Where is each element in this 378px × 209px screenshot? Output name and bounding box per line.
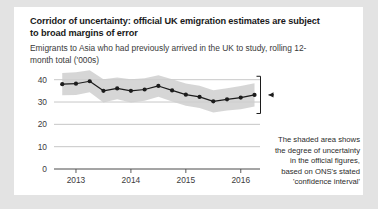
line-chart-svg: 010203040 2013201420152016 [14, 63, 274, 195]
data-point [211, 99, 215, 103]
annotation-arrow [269, 79, 274, 98]
confidence-band-area [62, 70, 254, 112]
x-tick-label: 2016 [231, 175, 250, 185]
bracket-path [257, 76, 261, 113]
data-point [115, 86, 119, 90]
chart-title: Corridor of uncertainty: official UK emi… [30, 15, 330, 39]
data-point [143, 87, 147, 91]
data-point [197, 95, 201, 99]
annotation-line: 'confidence interval' [257, 177, 360, 188]
y-tick-label: 10 [38, 142, 48, 152]
chart-card: Corridor of uncertainty: official UK emi… [14, 7, 363, 195]
confidence-band [62, 70, 254, 112]
data-point [252, 93, 256, 97]
annotation-line: based on ONS's stated [257, 167, 360, 178]
annotation-line: The shaded area shows [257, 135, 360, 146]
x-tick-label: 2014 [122, 175, 141, 185]
x-tick-label: 2015 [177, 175, 196, 185]
chart-plot-area: 010203040 2013201420152016 [14, 63, 274, 195]
data-point [170, 88, 174, 92]
data-point [60, 82, 64, 86]
arrow-head [269, 92, 274, 97]
data-point [239, 95, 243, 99]
x-axis: 2013201420152016 [67, 169, 251, 185]
y-tick-label: 30 [38, 97, 48, 107]
data-point [101, 89, 105, 93]
annotation-line: in the official figures, [257, 156, 360, 167]
annotation-text: The shaded area shows the degree of unce… [257, 135, 360, 188]
y-tick-label: 20 [38, 119, 48, 129]
data-point [74, 82, 78, 86]
data-point [225, 97, 229, 101]
y-tick-label: 0 [42, 164, 47, 174]
y-axis-ticks: 010203040 [38, 75, 48, 174]
data-point [88, 79, 92, 83]
data-point [184, 93, 188, 97]
uncertainty-bracket [257, 76, 261, 113]
y-tick-label: 40 [38, 75, 48, 85]
annotation-line: the degree of uncertainty [257, 146, 360, 157]
x-tick-label: 2013 [67, 175, 86, 185]
data-point [156, 84, 160, 88]
data-point [129, 89, 133, 93]
